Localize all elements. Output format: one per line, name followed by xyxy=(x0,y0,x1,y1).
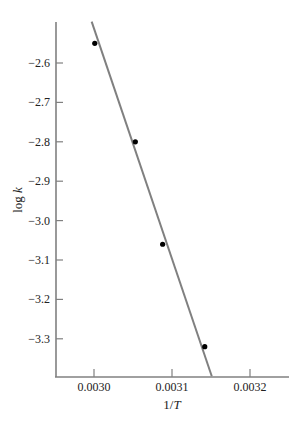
y-axis-title: log k xyxy=(10,187,25,213)
chart: −2.6−2.7−2.8−2.9−3.0−3.1−3.2−3.3 0.00300… xyxy=(0,0,296,431)
x-tick-label: 0.0032 xyxy=(234,380,267,394)
x-axis: 0.00300.00310.0032 xyxy=(55,369,289,394)
data-point xyxy=(92,41,97,46)
x-tick-label: 0.0030 xyxy=(78,380,111,394)
y-tick-label: −2.8 xyxy=(28,135,50,149)
data-point xyxy=(160,242,165,247)
y-tick-label: −2.7 xyxy=(28,95,50,109)
y-tick-label: −2.9 xyxy=(28,174,50,188)
y-tick-label: −3.2 xyxy=(28,292,50,306)
y-tick-label: −3.0 xyxy=(28,214,50,228)
y-tick-label: −3.1 xyxy=(28,253,50,267)
y-tick-label: −2.6 xyxy=(28,56,50,70)
x-axis-title: 1/T xyxy=(163,397,181,412)
plot-area xyxy=(92,22,212,377)
data-point xyxy=(133,139,138,144)
y-tick-label: −3.3 xyxy=(28,332,50,346)
fit-line xyxy=(92,22,212,377)
data-point xyxy=(202,344,207,349)
x-tick-label: 0.0031 xyxy=(156,380,189,394)
y-axis: −2.6−2.7−2.8−2.9−3.0−3.1−3.2−3.3 xyxy=(28,22,63,377)
